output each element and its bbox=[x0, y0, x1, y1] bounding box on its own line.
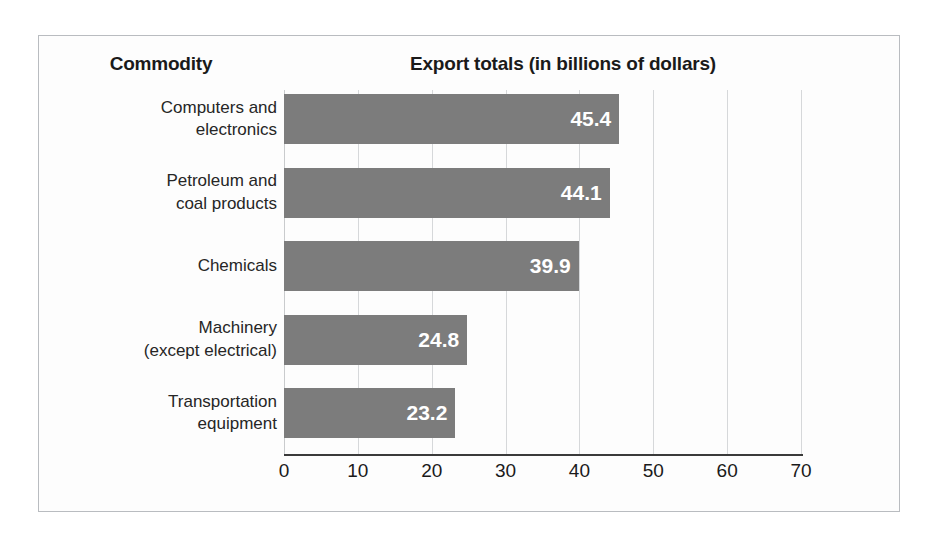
chart-header-row: Commodity Export totals (in billions of … bbox=[39, 53, 899, 83]
category-label: Transportationequipment bbox=[39, 388, 277, 438]
category-label: Chemicals bbox=[39, 241, 277, 291]
bar[interactable]: 39.9 bbox=[284, 241, 579, 291]
category-label-line: Petroleum and bbox=[166, 170, 277, 192]
x-tick-label-0: 0 bbox=[264, 460, 304, 482]
x-tick-label-70: 70 bbox=[781, 460, 821, 482]
bar[interactable]: 23.2 bbox=[284, 388, 455, 438]
commodity-column-header: Commodity bbox=[39, 53, 283, 75]
category-label: Computers andelectronics bbox=[39, 94, 277, 144]
plot-area: 45.444.139.924.823.2 bbox=[284, 90, 801, 454]
x-axis-line bbox=[284, 454, 803, 456]
category-label-line: coal products bbox=[176, 193, 277, 215]
bar-row: 39.9 bbox=[284, 241, 801, 291]
bar-value-label: 23.2 bbox=[406, 401, 447, 425]
bar-value-label: 45.4 bbox=[570, 107, 611, 131]
chart-figure: Commodity Export totals (in billions of … bbox=[38, 35, 900, 512]
chart-title: Export totals (in billions of dollars) bbox=[283, 53, 843, 75]
bar-value-label: 44.1 bbox=[561, 181, 602, 205]
category-label: Petroleum andcoal products bbox=[39, 168, 277, 218]
bar[interactable]: 24.8 bbox=[284, 315, 467, 365]
category-axis-labels: Computers andelectronicsPetroleum andcoa… bbox=[39, 90, 277, 454]
gridline-70 bbox=[801, 90, 802, 454]
bar-row: 44.1 bbox=[284, 168, 801, 218]
x-tick-label-50: 50 bbox=[633, 460, 673, 482]
category-label-line: Transportation bbox=[168, 391, 277, 413]
bar-row: 45.4 bbox=[284, 94, 801, 144]
x-tick-label-10: 10 bbox=[338, 460, 378, 482]
x-tick-label-20: 20 bbox=[412, 460, 452, 482]
x-tick-label-40: 40 bbox=[559, 460, 599, 482]
category-label-line: (except electrical) bbox=[144, 340, 277, 362]
x-tick-label-30: 30 bbox=[486, 460, 526, 482]
category-label-line: Chemicals bbox=[198, 255, 277, 277]
category-label-line: electronics bbox=[196, 119, 277, 141]
x-axis-tick-labels: 010203040506070 bbox=[284, 460, 803, 490]
category-label-line: Machinery bbox=[199, 317, 277, 339]
category-label: Machinery(except electrical) bbox=[39, 315, 277, 365]
bar-value-label: 39.9 bbox=[530, 254, 571, 278]
category-label-line: equipment bbox=[198, 413, 277, 435]
bar[interactable]: 44.1 bbox=[284, 168, 610, 218]
bar-series: 45.444.139.924.823.2 bbox=[284, 90, 801, 454]
x-tick-label-60: 60 bbox=[707, 460, 747, 482]
bar-row: 23.2 bbox=[284, 388, 801, 438]
bar[interactable]: 45.4 bbox=[284, 94, 619, 144]
category-label-line: Computers and bbox=[161, 97, 277, 119]
bar-value-label: 24.8 bbox=[418, 328, 459, 352]
bar-row: 24.8 bbox=[284, 315, 801, 365]
